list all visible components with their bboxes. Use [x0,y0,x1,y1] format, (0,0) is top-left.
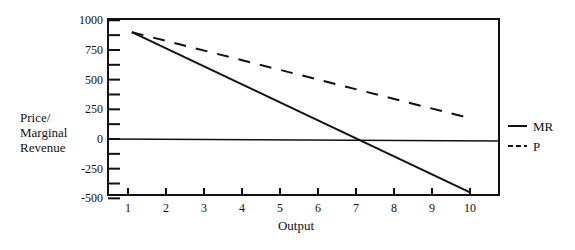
y-tick-label: 250 [85,102,103,116]
price-mr-chart: 10007505002500-250-500 12345678910 Outpu… [0,0,575,250]
plot-frame [108,19,499,195]
svg-text:Revenue: Revenue [20,140,66,155]
y-tick-label: -250 [81,162,103,176]
svg-text:Price/: Price/ [20,110,51,125]
x-tick-label: 6 [315,201,321,215]
x-tick-label: 10 [464,201,476,215]
y-axis-ticks: 10007505002500-250-500 [79,13,120,205]
y-tick-label: -500 [81,191,103,205]
x-tick-label: 4 [239,201,245,215]
x-tick-label: 2 [163,201,169,215]
series-mr [132,32,470,192]
x-tick-label: 5 [277,201,283,215]
legend-label-mr: MR [533,119,554,134]
zero-line [108,139,499,141]
x-tick-label: 3 [201,201,207,215]
y-tick-label: 500 [85,73,103,87]
x-tick-label: 9 [429,201,435,215]
x-tick-label: 7 [353,201,359,215]
legend-label-p: P [533,139,540,154]
y-axis-title: Price/ Marginal Revenue [20,110,68,155]
x-tick-label: 1 [125,201,131,215]
x-axis-ticks: 12345678910 [125,188,476,215]
y-tick-label: 0 [97,132,103,146]
series-lines [132,32,470,195]
y-tick-label: 750 [85,43,103,57]
x-axis-title: Output [278,218,315,233]
y-tick-label: 1000 [79,13,103,27]
series-p [132,32,470,118]
legend: MR P [508,119,554,154]
svg-text:Marginal: Marginal [20,125,68,140]
x-tick-label: 8 [391,201,397,215]
